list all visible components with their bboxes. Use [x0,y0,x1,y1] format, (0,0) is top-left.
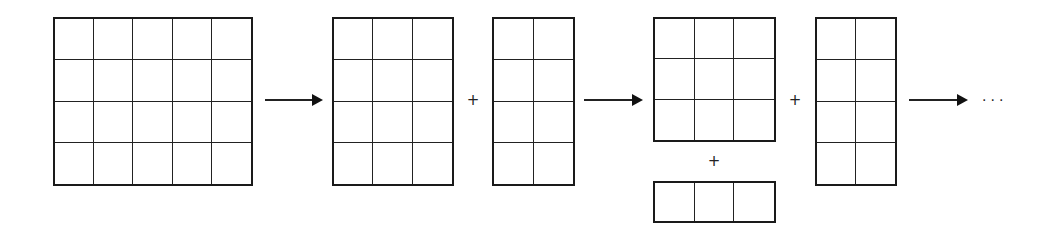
grid-cell [173,19,212,60]
grid-cell [212,19,251,60]
grid-cell [655,100,695,140]
grid-cell [655,59,695,99]
grid-cell [413,102,452,143]
grid-cell [817,19,856,60]
grid-cell [133,60,172,101]
plus-sign: + [708,154,721,169]
grid-cell [817,102,856,143]
grid-cell [817,60,856,101]
grid-cell [655,183,695,221]
grid-cell [734,183,774,221]
grid-cell [534,102,574,143]
right-arrow-icon [265,99,321,101]
grid-cell [413,143,452,184]
grid-cell [817,143,856,184]
grid-cell [534,143,574,184]
grid-cell [334,102,373,143]
grid-cell [734,59,774,99]
right-arrow-icon [584,99,641,101]
grid-cell [212,143,251,184]
grid-cell [695,100,735,140]
grid-b-3x4 [332,17,454,186]
grid-c-2x4 [492,17,575,186]
grid-cell [334,60,373,101]
grid-cell [334,19,373,60]
grid-cell [856,143,895,184]
grid-cell [55,60,94,101]
grid-cell [413,60,452,101]
grid-cell [494,60,534,101]
grid-cell [94,60,133,101]
grid-cell [534,19,574,60]
grid-cell [373,143,412,184]
grid-cell [695,183,735,221]
grid-e-3x1 [653,181,776,223]
grid-cell [695,59,735,99]
grid-cell [133,102,172,143]
grid-cell [494,102,534,143]
grid-cell [373,19,412,60]
grid-cell [413,19,452,60]
grid-cell [494,143,534,184]
grid-cell [734,100,774,140]
grid-cell [55,19,94,60]
grid-cell [695,19,735,59]
grid-a-5x4 [53,17,253,186]
grid-d-3x3 [653,17,776,142]
grid-cell [94,143,133,184]
grid-cell [856,19,895,60]
grid-cell [334,143,373,184]
grid-cell [373,60,412,101]
grid-cell [534,60,574,101]
grid-cell [94,102,133,143]
ellipsis: ··· [982,92,1007,108]
grid-cell [212,60,251,101]
grid-cell [173,102,212,143]
grid-cell [133,143,172,184]
grid-cell [856,60,895,101]
grid-cell [133,19,172,60]
grid-cell [212,102,251,143]
grid-f-2x4 [815,17,897,186]
grid-cell [173,60,212,101]
grid-cell [55,143,94,184]
grid-cell [173,143,212,184]
grid-cell [373,102,412,143]
grid-cell [55,102,94,143]
plus-sign: + [789,93,802,108]
right-arrow-icon [909,99,966,101]
grid-cell [734,19,774,59]
grid-cell [655,19,695,59]
grid-cell [94,19,133,60]
grid-cell [856,102,895,143]
grid-cell [494,19,534,60]
plus-sign: + [467,93,480,108]
